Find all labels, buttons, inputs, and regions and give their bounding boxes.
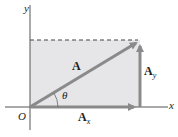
ax-label: Ax bbox=[78, 110, 90, 126]
vector-a-label: A bbox=[72, 59, 81, 74]
origin-label: O bbox=[18, 110, 26, 122]
angle-label: θ bbox=[62, 89, 67, 101]
x-axis-label: x bbox=[169, 99, 174, 111]
vector-diagram: y x O A θ Ax Ay bbox=[0, 0, 178, 137]
ay-label: Ay bbox=[144, 64, 156, 80]
y-axis-label: y bbox=[24, 2, 29, 14]
